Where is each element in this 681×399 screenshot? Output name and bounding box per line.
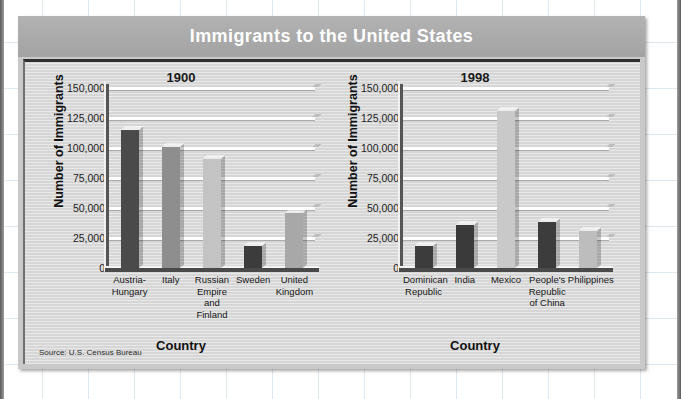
page-background: Immigrants to the United States 1900 Num…	[0, 0, 681, 399]
bar-side	[139, 127, 143, 268]
plot-area: 1900 Number of Immigrants 150,000125,000…	[23, 59, 640, 364]
bar	[203, 159, 221, 268]
x-category-label: Austria-Hungary	[109, 274, 150, 297]
bar-top	[203, 155, 225, 159]
figure-title: Immigrants to the United States	[190, 26, 473, 47]
x-category-label-line: Kingdom	[274, 286, 315, 298]
x-category-label-line: People's	[527, 274, 568, 286]
x-category-label-line: India	[444, 274, 485, 286]
page-edge-right	[677, 0, 681, 399]
bar-side	[180, 144, 184, 268]
figure-title-bar: Immigrants to the United States	[18, 16, 645, 57]
bar-top	[162, 143, 184, 147]
bar-top	[497, 107, 519, 111]
x-category-label-line: Republic	[527, 286, 568, 298]
bar-face	[285, 213, 303, 268]
x-tick-labels-1900: Austria-HungaryItalyRussianEmpireand Fin…	[105, 274, 319, 336]
x-category-label: RussianEmpireand Finland	[191, 274, 232, 320]
gridline-1900-150000	[109, 87, 315, 90]
bar	[244, 246, 262, 268]
bar-top	[121, 126, 143, 130]
gridline-1998-150000	[403, 87, 609, 90]
figure-card: Immigrants to the United States 1900 Num…	[18, 16, 645, 369]
x-axis-line-1998	[399, 268, 613, 272]
bar-face	[415, 246, 433, 268]
bar-face	[579, 231, 597, 268]
bar	[538, 222, 556, 268]
x-category-label-line: Hungary	[109, 286, 150, 298]
x-category-label-line: Dominican	[403, 274, 444, 286]
bar-side	[474, 222, 478, 268]
bar	[456, 225, 474, 268]
y-tick-1900-75000: 75,000	[73, 172, 105, 184]
plot-box-1900	[109, 88, 315, 268]
x-category-label-line: Austria-	[109, 274, 150, 286]
x-category-label: India	[444, 274, 485, 286]
gridline-1900-125000	[109, 117, 315, 120]
y-tick-1900-100000: 100,000	[67, 142, 105, 154]
bar-face	[162, 147, 180, 268]
bar-side	[433, 243, 437, 268]
x-category-label-line: United	[274, 274, 315, 286]
y-tick-1998-25000: 25,000	[367, 232, 399, 244]
bar	[579, 231, 597, 268]
bar-top	[456, 221, 478, 225]
bar-face	[121, 130, 139, 268]
x-category-label-line: Republic	[403, 286, 444, 298]
y-tick-1998-50000: 50,000	[367, 202, 399, 214]
x-tick-labels-1998: DominicanRepublicIndiaMexicoPeople'sRepu…	[399, 274, 613, 336]
bar	[285, 213, 303, 268]
bar	[415, 246, 433, 268]
bar	[121, 130, 139, 268]
y-tick-1900-50000: 50,000	[73, 202, 105, 214]
bar-face	[244, 246, 262, 268]
y-tick-1998-100000: 100,000	[361, 142, 399, 154]
x-category-label: People'sRepublicof China	[527, 274, 568, 309]
x-category-label-line: Sweden	[233, 274, 274, 286]
plot-box-1998	[403, 88, 609, 268]
bar-side	[303, 210, 307, 268]
y-tick-1900-25000: 25,000	[73, 232, 105, 244]
x-category-label-line: and Finland	[191, 297, 232, 320]
bar-face	[203, 159, 221, 268]
y-tick-labels-1900: 150,000125,000100,00075,00050,00025,0000	[45, 88, 105, 268]
x-category-label: Italy	[150, 274, 191, 286]
bar-face	[497, 111, 515, 268]
source-note: Source: U.S. Census Bureau	[39, 348, 142, 357]
y-tick-labels-1998: 150,000125,000100,00075,00050,00025,0000	[339, 88, 399, 268]
bar-side	[597, 228, 601, 268]
y-tick-1998-125000: 125,000	[361, 112, 399, 124]
y-tick-1900-150000: 150,000	[67, 82, 105, 94]
x-category-label: UnitedKingdom	[274, 274, 315, 297]
bar-face	[456, 225, 474, 268]
x-category-label: DominicanRepublic	[403, 274, 444, 297]
bar-side	[262, 243, 266, 268]
bar-side	[556, 219, 560, 268]
x-category-label-line: Philippines	[568, 274, 609, 286]
x-category-label-line: Empire	[191, 286, 232, 298]
bar	[497, 111, 515, 268]
bar	[162, 147, 180, 268]
x-category-label-line: Russian	[191, 274, 232, 286]
x-axis-line-1900	[105, 268, 319, 272]
x-axis-title-1998: Country	[325, 338, 625, 353]
page-edge-left	[0, 0, 4, 399]
x-category-label: Philippines	[568, 274, 609, 286]
x-category-label: Mexico	[485, 274, 526, 286]
y-tick-1900-125000: 125,000	[67, 112, 105, 124]
x-category-label-line: Italy	[150, 274, 191, 286]
chart-panel-1998: 1998 Number of Immigrants 150,000125,000…	[325, 62, 625, 367]
bar-side	[221, 156, 225, 268]
chart-panel-1900: 1900 Number of Immigrants 150,000125,000…	[31, 62, 331, 367]
y-tick-1998-75000: 75,000	[367, 172, 399, 184]
bar-side	[515, 108, 519, 268]
x-category-label-line: Mexico	[485, 274, 526, 286]
x-category-label-line: of China	[527, 297, 568, 309]
x-category-label: Sweden	[233, 274, 274, 286]
bar-face	[538, 222, 556, 268]
y-tick-1998-150000: 150,000	[361, 82, 399, 94]
